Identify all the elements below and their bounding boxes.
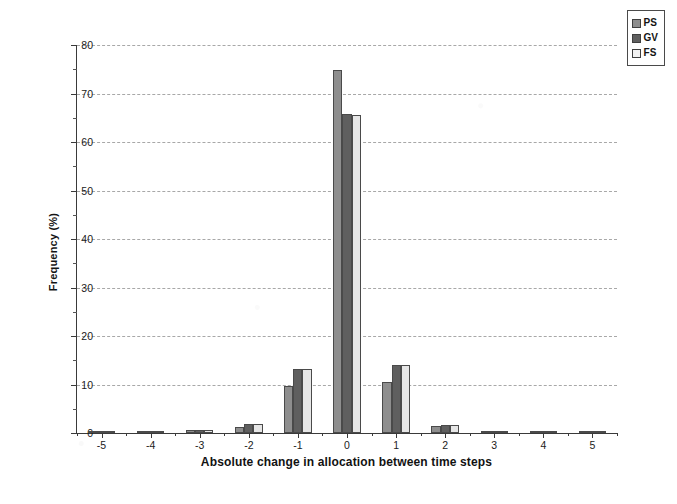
legend-item-ps: PS [632,16,658,30]
bar-group [333,45,360,433]
x-axis-tick [200,433,201,438]
x-axis-minor-tick [617,433,618,436]
plot-area: 01020304050607080 -5-4-3-2-1012345 [76,45,617,434]
bar-ps--1 [284,386,293,433]
bar-ps-0 [333,70,342,433]
legend-label-ps: PS [644,18,657,28]
y-axis-title: Frequency (%) [47,213,59,291]
bar-group [579,45,606,433]
bar-fs-0 [352,115,361,433]
legend-swatch-ps-icon [632,19,641,28]
x-axis-tick-label: 1 [393,439,399,451]
bar-group [235,45,262,433]
bar-group [88,45,115,433]
x-axis-tick [151,433,152,438]
bar-fs--5 [106,431,115,433]
bar-fs--3 [204,430,213,433]
legend-item-fs: FS [632,46,658,60]
bar-group [284,45,311,433]
legend-label-fs: FS [644,48,657,58]
chart-legend: PS GV FS [627,10,665,66]
x-axis-minor-tick [470,433,471,436]
bar-group [137,45,164,433]
bar-ps--4 [137,431,146,433]
x-axis-tick [298,433,299,438]
x-axis-minor-tick [175,433,176,436]
bar-fs-5 [597,431,606,433]
x-axis-minor-tick [372,433,373,436]
x-axis-minor-tick [224,433,225,436]
legend-swatch-gv-icon [632,34,641,43]
x-axis-minor-tick [273,433,274,436]
x-axis-tick-label: 2 [442,439,448,451]
x-axis-tick-label: -2 [244,439,253,451]
bar-group [481,45,508,433]
x-axis-tick-label: -5 [97,439,106,451]
bar-ps-1 [382,382,391,433]
x-axis-tick [592,433,593,438]
bar-ps--3 [186,430,195,433]
x-axis-minor-tick [421,433,422,436]
y-axis-minor-tick [73,263,77,264]
bar-fs--1 [302,369,311,434]
bar-chart-figure: Frequency (%) 01020304050607080 -5-4-3-2… [0,0,677,504]
x-axis-tick-label: -3 [195,439,204,451]
x-axis-tick-label: -1 [293,439,302,451]
bar-group [431,45,458,433]
bar-gv--2 [244,424,253,433]
bar-fs-2 [450,425,459,433]
x-axis-tick [347,433,348,438]
x-axis-tick-label: -4 [146,439,155,451]
bar-fs-4 [548,431,557,433]
bar-fs--2 [253,424,262,433]
bar-ps-3 [481,431,490,433]
x-axis-minor-tick [568,433,569,436]
x-axis-tick-label: 4 [540,439,546,451]
bar-gv-0 [342,114,351,433]
y-axis-minor-tick [73,69,77,70]
x-axis-tick [543,433,544,438]
bar-group [530,45,557,433]
bar-fs--4 [155,431,164,433]
x-axis-tick [445,433,446,438]
legend-item-gv: GV [632,31,658,45]
bar-gv-1 [392,365,401,433]
x-axis-minor-tick [322,433,323,436]
x-axis-tick-label: 0 [344,439,350,451]
x-axis-tick [102,433,103,438]
bar-gv-2 [441,425,450,433]
bar-ps--5 [88,431,97,433]
x-axis-tick-label: 5 [590,439,596,451]
x-axis-minor-tick [519,433,520,436]
y-axis-minor-tick [73,360,77,361]
legend-label-gv: GV [644,33,658,43]
bar-ps-4 [530,431,539,433]
bar-group [186,45,213,433]
bar-ps-5 [579,431,588,433]
x-axis-tick-label: 3 [491,439,497,451]
x-axis-title: Absolute change in allocation between ti… [76,455,617,469]
x-axis-tick [249,433,250,438]
legend-swatch-fs-icon [632,49,641,58]
x-axis-minor-tick [126,433,127,436]
y-axis-minor-tick [73,215,77,216]
y-axis-minor-tick [73,118,77,119]
x-axis-minor-tick [77,433,78,436]
bar-fs-1 [401,365,410,433]
bar-ps--2 [235,427,244,433]
bar-group [382,45,409,433]
y-axis-minor-tick [73,409,77,410]
y-axis-minor-tick [73,166,77,167]
x-axis-tick [494,433,495,438]
x-axis-tick [396,433,397,438]
y-axis-minor-tick [73,312,77,313]
bar-ps-2 [431,426,440,433]
bar-fs-3 [499,431,508,433]
bar-gv--1 [293,369,302,434]
